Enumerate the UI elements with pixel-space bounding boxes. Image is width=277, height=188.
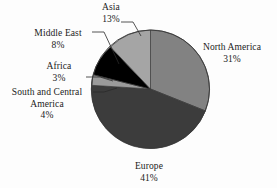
pie-label-north-america-percent: 31% — [192, 54, 272, 66]
pie-label-asia-name: Asia — [86, 2, 136, 14]
pie-label-africa-percent: 3% — [28, 73, 90, 85]
pie-label-south-and-central-america: South and Central America 4% — [2, 87, 92, 122]
pie-label-middle-east: Middle East 8% — [22, 28, 94, 51]
pie-label-europe-name: Europe — [112, 161, 186, 173]
pie-label-south-and-central-america-line1: South and Central — [2, 87, 92, 99]
pie-label-south-and-central-america-percent: 4% — [2, 110, 92, 122]
pie-label-africa: Africa 3% — [28, 61, 90, 84]
pie-label-europe: Europe 41% — [112, 161, 186, 184]
pie-label-africa-name: Africa — [28, 61, 90, 73]
pie-chart: Asia 13% Middle East 8% Africa 3% South … — [0, 0, 277, 188]
pie-label-middle-east-percent: 8% — [22, 40, 94, 52]
pie-label-south-and-central-america-line2: America — [2, 99, 92, 111]
pie-label-europe-percent: 41% — [112, 173, 186, 185]
pie-label-north-america: North America 31% — [192, 42, 272, 65]
pie-label-asia-percent: 13% — [86, 14, 136, 26]
pie-label-north-america-name: North America — [192, 42, 272, 54]
pie-label-asia: Asia 13% — [86, 2, 136, 25]
pie-label-middle-east-name: Middle East — [22, 28, 94, 40]
